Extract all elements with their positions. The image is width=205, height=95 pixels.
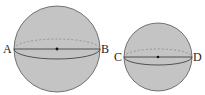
large-sphere: A B — [3, 6, 109, 92]
small-sphere-center — [157, 56, 160, 59]
small-sphere: C D — [114, 23, 202, 91]
two-spheres-diagram: A B C D — [0, 0, 205, 95]
label-A: A — [3, 42, 12, 56]
label-D: D — [193, 50, 202, 64]
label-B: B — [101, 42, 109, 56]
label-C: C — [114, 50, 122, 64]
large-sphere-center — [56, 48, 59, 51]
